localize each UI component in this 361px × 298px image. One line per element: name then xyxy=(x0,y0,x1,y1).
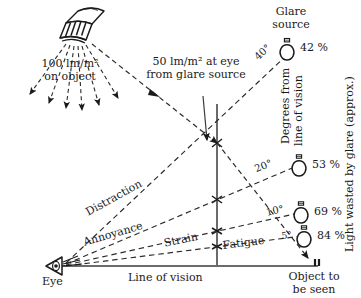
waste-label-84: 84 % xyxy=(317,230,345,243)
light-wasted-axis-label: Light wasted by glare (approx.) xyxy=(344,76,357,252)
ray-annoyance xyxy=(66,166,297,264)
eye-illuminance-label: 50 lm/m² at eye from glare source xyxy=(130,56,262,81)
bulb-icon-40deg xyxy=(280,39,294,61)
object-label: Object to be seen xyxy=(274,271,354,296)
luminaire-illuminance-line2: on object xyxy=(22,71,118,84)
angle-label-5: 5° xyxy=(281,230,293,242)
degrees-axis-line xyxy=(212,104,222,265)
glare-source-label: Glare source xyxy=(258,6,324,31)
waste-label-53: 53 % xyxy=(312,159,340,172)
luminaire-icon xyxy=(60,8,104,43)
waste-label-69: 69 % xyxy=(314,206,342,219)
line-of-vision-label: Line of vision xyxy=(128,272,203,285)
eye-illuminance-line1: 50 lm/m² at eye xyxy=(130,56,262,69)
object-label-line2: be seen xyxy=(274,284,354,297)
glare-diagram: 100 lm/m² on object 50 lm/m² at eye from… xyxy=(0,0,361,298)
bulb-icon-20deg xyxy=(292,155,306,176)
waste-label-42: 42 % xyxy=(300,42,328,55)
degrees-axis-line2: line of vision xyxy=(293,75,306,146)
bulb-icon-10deg xyxy=(294,202,308,223)
object-label-line1: Object to xyxy=(274,271,354,284)
degrees-axis-line1: Degrees from xyxy=(280,68,293,144)
bulb-icon-5deg xyxy=(297,226,311,247)
eye-label: Eye xyxy=(42,276,63,289)
glare-source-line2: source xyxy=(258,19,324,32)
luminaire-illuminance-line1: 100 lm/m² xyxy=(22,58,118,71)
eye-illuminance-line2: from glare source xyxy=(130,69,262,82)
object-marker xyxy=(315,259,319,266)
luminaire-illuminance-label: 100 lm/m² on object xyxy=(22,58,118,83)
glare-source-line1: Glare xyxy=(258,6,324,19)
